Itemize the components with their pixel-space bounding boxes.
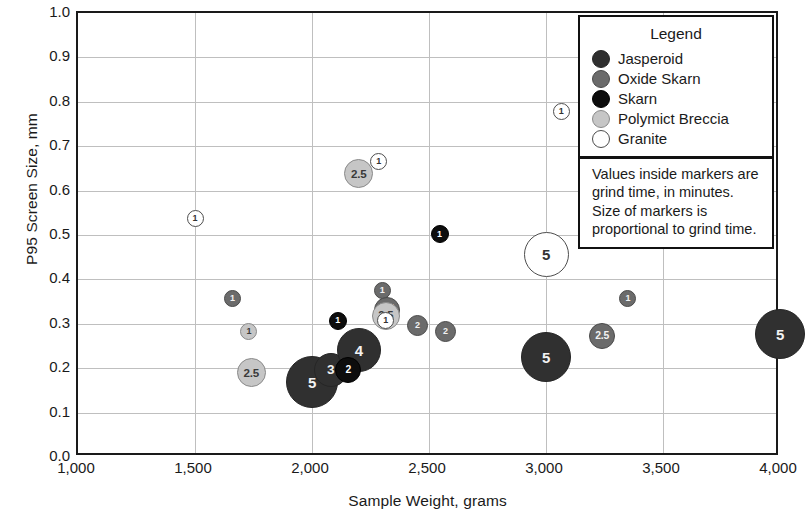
- legend-swatch-icon: [592, 50, 610, 68]
- x-tick-label: 3,000: [499, 460, 589, 476]
- legend-item-label: Granite: [618, 129, 667, 148]
- y-tick-label: 1.0: [10, 4, 70, 19]
- data-point-marker[interactable]: 1: [619, 290, 636, 307]
- data-point-marker[interactable]: 1: [329, 312, 347, 330]
- gridline-horizontal: [78, 413, 776, 414]
- x-tick-label: 2,000: [265, 460, 355, 476]
- legend-swatch-icon: [592, 90, 610, 108]
- data-point-marker[interactable]: 2: [435, 321, 456, 342]
- x-tick-label: 3,500: [616, 460, 706, 476]
- legend-item-label: Jasperoid: [618, 49, 683, 68]
- legend-item-label: Oxide Skarn: [618, 69, 701, 88]
- data-point-marker[interactable]: 2.5: [237, 358, 266, 387]
- data-point-marker[interactable]: 2: [407, 315, 428, 336]
- gridline-horizontal: [78, 368, 776, 369]
- x-tick-label: 1,000: [31, 460, 121, 476]
- y-tick-label: 0.8: [10, 93, 70, 108]
- data-point-marker[interactable]: 5: [755, 309, 805, 359]
- legend-note: Values inside markers are grind time, in…: [580, 159, 772, 239]
- y-tick-label: 0.9: [10, 48, 70, 63]
- y-tick-label: 0.1: [10, 404, 70, 419]
- gridline-vertical: [195, 13, 196, 453]
- legend-item-polymict[interactable]: Polymict Breccia: [580, 109, 772, 129]
- x-tick-label: 4,000: [733, 460, 809, 476]
- legend-item-skarn[interactable]: Skarn: [580, 89, 772, 109]
- legend-title: Legend: [580, 25, 772, 43]
- legend-box: Legend JasperoidOxide SkarnSkarnPolymict…: [578, 15, 774, 249]
- data-point-marker[interactable]: 1: [224, 290, 241, 307]
- legend-item-label: Skarn: [618, 89, 657, 108]
- data-point-marker[interactable]: 1: [553, 103, 570, 120]
- y-tick-label: 0.5: [10, 226, 70, 241]
- y-tick-label: 0.6: [10, 182, 70, 197]
- legend-items: JasperoidOxide SkarnSkarnPolymict Brecci…: [580, 49, 772, 149]
- legend-item-jasperoid[interactable]: Jasperoid: [580, 49, 772, 69]
- y-tick-label: 0.3: [10, 315, 70, 330]
- legend-item-label: Polymict Breccia: [618, 109, 729, 128]
- legend-item-oxideskarn[interactable]: Oxide Skarn: [580, 69, 772, 89]
- x-tick-label: 2,500: [382, 460, 472, 476]
- y-tick-label: 0.4: [10, 270, 70, 285]
- legend-swatch-icon: [592, 130, 610, 148]
- legend-item-granite[interactable]: Granite: [580, 129, 772, 149]
- gridline-horizontal: [78, 279, 776, 280]
- x-axis-title: Sample Weight, grams: [76, 492, 779, 510]
- data-point-marker[interactable]: 1: [431, 225, 449, 243]
- data-point-marker[interactable]: 5: [521, 332, 571, 382]
- gridline-vertical: [429, 13, 430, 453]
- y-tick-label: 0.2: [10, 359, 70, 374]
- data-point-marker[interactable]: 1: [187, 210, 204, 227]
- legend-swatch-icon: [592, 70, 610, 88]
- x-tick-label: 1,500: [148, 460, 238, 476]
- y-tick-label: 0.7: [10, 137, 70, 152]
- legend-swatch-icon: [592, 110, 610, 128]
- data-point-marker[interactable]: 5: [524, 232, 569, 277]
